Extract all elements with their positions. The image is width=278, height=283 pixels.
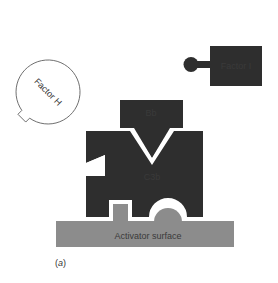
surface-square-bump [113, 204, 128, 222]
bb-label: Bb [145, 108, 156, 118]
surface-round-bump [154, 208, 182, 222]
factor-h: Factor H [0, 47, 93, 141]
panel-label: (a) [55, 258, 66, 268]
factor-i-label: Factor I [221, 61, 252, 71]
complement-regulation-diagram: Factor I Factor H Activator surface C3b … [0, 0, 278, 283]
activator-surface-label: Activator surface [114, 231, 181, 241]
c3b-label: C3b [144, 172, 161, 182]
factor-i: Factor I [184, 46, 263, 86]
factor-i-knob [184, 57, 199, 72]
activator-surface: Activator surface [56, 221, 234, 247]
